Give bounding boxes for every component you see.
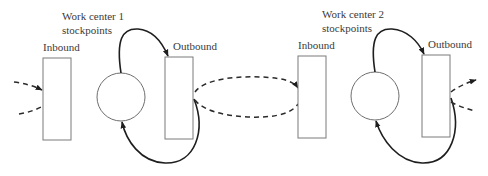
work-center-2-inbound-stockpoint [298, 56, 326, 138]
work-center-1-inbound-stockpoint [43, 58, 71, 140]
work-center-2-inbound-label: Inbound [298, 39, 335, 51]
transfer-flow-arrow [195, 77, 298, 92]
work-center-1-output-arrow [119, 29, 168, 73]
incoming-flow-arrow-1 [14, 82, 42, 90]
work-center-1-title: Work center 1 [62, 10, 124, 22]
work-center-2-output-arrow [373, 29, 424, 72]
work-center-2-outbound-label: Outbound [428, 38, 473, 50]
outgoing-flow-arrow [451, 80, 476, 92]
work-center-1-inbound-label: Inbound [43, 41, 80, 53]
work-center-1-subtitle: stockpoints [62, 24, 112, 36]
work-center-2-subtitle: stockpoints [322, 22, 372, 34]
work-center-2-outbound-stockpoint [422, 55, 450, 137]
work-center-2-title: Work center 2 [322, 8, 384, 20]
work-center-1-group: Work center 1 stockpoints Inbound Outbou… [14, 10, 218, 163]
work-center-1-outbound-label: Outbound [173, 40, 218, 52]
incoming-flow-line-1 [19, 106, 43, 114]
stockpoint-flow-diagram: Work center 1 stockpoints Inbound Outbou… [0, 0, 488, 176]
work-center-2-group: Work center 2 stockpoints Inbound Outbou… [298, 8, 476, 163]
transfer-flow-return [195, 100, 298, 117]
work-center-2-machine [351, 72, 399, 120]
work-center-1-machine [97, 73, 145, 121]
work-center-1-outbound-stockpoint [165, 57, 193, 139]
